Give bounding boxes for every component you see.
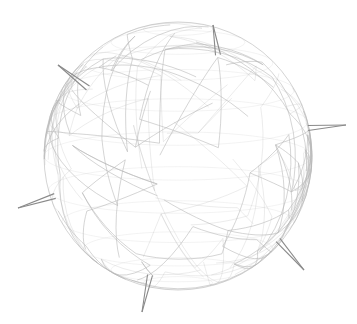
image-stage [0,0,357,324]
sphere-wireframe [44,22,312,290]
spike-left [18,194,56,208]
wireframe-sphere-image [0,0,357,324]
spike-right [308,125,346,130]
